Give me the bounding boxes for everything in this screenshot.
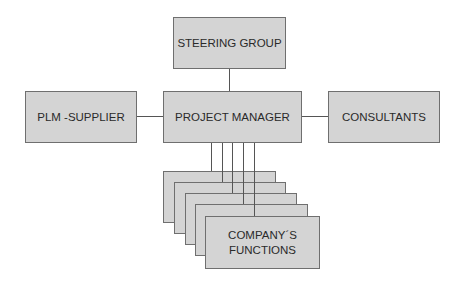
consultants-label: CONSULTANTS <box>342 110 426 125</box>
company-functions-box: COMPANY´S FUNCTIONS <box>205 216 320 269</box>
company-functions-label-line2: FUNCTIONS <box>229 243 296 258</box>
connector-pm-card-5 <box>254 143 255 216</box>
project-manager-label: PROJECT MANAGER <box>175 110 290 125</box>
connector-pm-card-4 <box>243 143 244 204</box>
consultants-box: CONSULTANTS <box>328 91 440 143</box>
connector-steering-pm <box>229 69 230 91</box>
connector-plm-pm <box>137 116 163 117</box>
plm-supplier-label: PLM -SUPPLIER <box>37 110 125 125</box>
steering-group-box: STEERING GROUP <box>173 17 286 69</box>
connector-pm-consultants <box>302 116 328 117</box>
connector-pm-card-3 <box>232 143 233 193</box>
steering-group-label: STEERING GROUP <box>177 36 281 51</box>
company-functions-label-line1: COMPANY´S <box>228 228 297 243</box>
project-manager-box: PROJECT MANAGER <box>163 91 302 143</box>
plm-supplier-box: PLM -SUPPLIER <box>25 91 137 143</box>
connector-pm-card-1 <box>211 143 212 171</box>
connector-pm-card-2 <box>222 143 223 182</box>
